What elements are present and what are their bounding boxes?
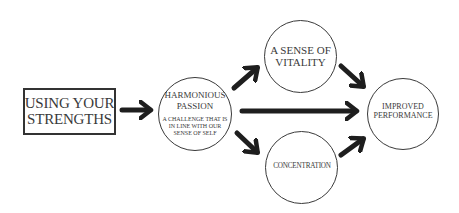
node-harmonious-passion <box>158 77 232 151</box>
arrow-passion-to-concentration <box>237 133 257 152</box>
node-using-your-strengths-label: USING YOUR STRENGTHS <box>25 90 114 133</box>
label-line: IMPROVED <box>366 102 440 111</box>
label-line: IN LINE WITH OUR <box>158 123 232 130</box>
arrow-passion-to-vitality <box>234 68 257 88</box>
arrow-concentration-to-performance <box>341 139 363 155</box>
node-harmonious-passion-title: HARMONIOUS PASSION <box>158 91 232 112</box>
label-line: PASSION <box>158 102 232 111</box>
label-line: STRENGTHS <box>27 112 112 128</box>
node-concentration-label: CONCENTRATION <box>262 163 342 171</box>
arrow-vitality-to-performance <box>341 66 363 86</box>
node-sense-of-vitality-label: A SENSE OF VITALITY <box>260 45 341 68</box>
label-line: CONCENTRATION <box>262 163 342 171</box>
label-line: A SENSE OF <box>260 45 341 57</box>
label-line: USING YOUR <box>25 96 115 112</box>
label-line: PERFORMANCE <box>366 111 440 120</box>
label-line: VITALITY <box>260 57 341 69</box>
node-using-your-strengths: USING YOUR STRENGTHS <box>23 88 116 135</box>
label-line: A CHALLENGE THAT IS <box>158 116 232 123</box>
node-harmonious-passion-subtitle: A CHALLENGE THAT IS IN LINE WITH OUR SEN… <box>158 116 232 138</box>
label-line: SENSE OF SELF <box>158 130 232 137</box>
node-improved-performance-label: IMPROVED PERFORMANCE <box>366 102 440 120</box>
label-line: HARMONIOUS <box>158 91 232 100</box>
